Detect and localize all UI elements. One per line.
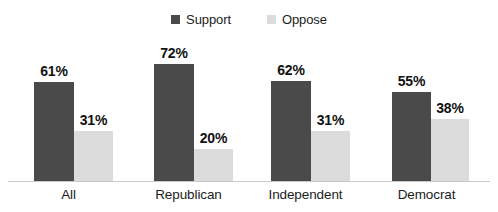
bar-oppose: [194, 149, 233, 181]
bar-group-bars: 72% 20%: [132, 0, 245, 181]
bar-group-democrat: 55% 38% Democrat: [370, 0, 483, 212]
category-label-independent: Independent: [249, 188, 362, 202]
category-label-republican: Republican: [132, 188, 245, 202]
bar-support: [392, 92, 431, 181]
plot-area: 61% 31% All 72% 20% Republican 62% 31% I…: [0, 0, 498, 212]
bar-value-oppose: 38%: [431, 101, 469, 115]
category-label-democrat: Democrat: [370, 188, 483, 202]
bar-support: [271, 81, 311, 181]
bar-group-bars: 55% 38%: [370, 0, 483, 181]
bar-value-support: 72%: [154, 46, 194, 60]
bar-group-all: 61% 31% All: [12, 0, 125, 212]
bar-support: [34, 82, 74, 181]
bar-value-support: 62%: [271, 63, 311, 77]
bar-group-bars: 62% 31%: [249, 0, 362, 181]
bar-value-support: 61%: [34, 64, 74, 78]
bar-group-republican: 72% 20% Republican: [132, 0, 245, 212]
bar-group-bars: 61% 31%: [12, 0, 125, 181]
category-label-all: All: [12, 188, 125, 202]
bar-value-oppose: 20%: [194, 131, 233, 145]
bar-value-support: 55%: [392, 74, 431, 88]
bar-group-independent: 62% 31% Independent: [249, 0, 362, 212]
bar-support: [154, 64, 194, 181]
bar-value-oppose: 31%: [311, 113, 350, 127]
bar-oppose: [431, 119, 469, 181]
bar-oppose: [311, 131, 350, 181]
bar-oppose: [74, 131, 113, 181]
bar-value-oppose: 31%: [74, 113, 113, 127]
bar-chart: Support Oppose 61% 31% All 72% 20%: [0, 0, 498, 212]
